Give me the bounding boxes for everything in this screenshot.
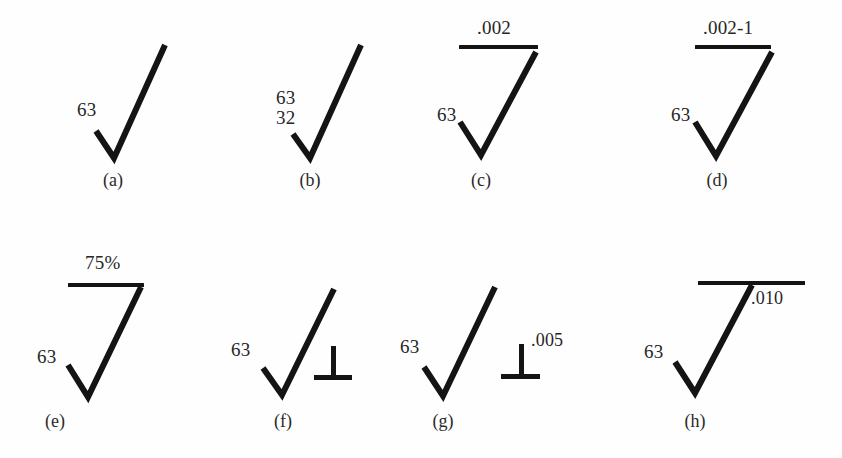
panel-e-bar-label: 75% (85, 253, 120, 272)
panel-b-caption: (b) (285, 171, 335, 189)
panel-c-bar-label: .002 (477, 18, 511, 37)
panel-d-left-label: 63 (671, 105, 690, 124)
panel-d: .002-1 63 (d) (630, 0, 842, 200)
panel-d-overbar (695, 45, 771, 49)
panel-b-left-label: 63 (276, 88, 295, 107)
panel-g-perp-label: .005 (531, 331, 563, 349)
panel-c: .002 63 (c) (420, 0, 630, 200)
panel-d-caption: (d) (692, 171, 742, 189)
panel-c-left-label: 63 (437, 105, 456, 124)
panel-b-stacked-label: 32 (276, 108, 295, 127)
panel-g-left-label: 63 (400, 337, 419, 356)
panel-h-left-label: 63 (644, 342, 663, 361)
perpendicular-f-icon (310, 346, 358, 381)
panel-c-caption: (c) (456, 171, 506, 189)
panel-h: .010 63 (h) (620, 229, 842, 458)
panel-a-left-label: 63 (77, 100, 96, 119)
figure-canvas: 63 (a) 63 32 (b) .002 63 (c) .002-1 63 (… (0, 0, 842, 458)
panel-a: 63 (a) (0, 0, 210, 200)
panel-d-bar-label: .002-1 (703, 18, 753, 37)
panel-h-overbar (698, 281, 805, 285)
panel-g: .005 63 (g) (400, 229, 620, 458)
panel-f-left-label: 63 (231, 340, 250, 359)
panel-f-caption: (f) (258, 412, 308, 430)
panel-e-left-label: 63 (37, 347, 56, 366)
panel-h-bar-label: .010 (751, 289, 783, 307)
panel-h-caption: (h) (670, 412, 720, 430)
panel-e-caption: (e) (30, 412, 80, 430)
panel-b: 63 32 (b) (210, 0, 420, 200)
panel-a-caption: (a) (88, 171, 138, 189)
panel-c-overbar (459, 45, 538, 49)
checkmark-c-icon (420, 0, 630, 200)
panel-g-caption: (g) (418, 412, 468, 430)
panel-e: 75% 63 (e) (0, 229, 210, 458)
panel-e-overbar (68, 283, 144, 287)
panel-f: 63 (f) (210, 229, 420, 458)
